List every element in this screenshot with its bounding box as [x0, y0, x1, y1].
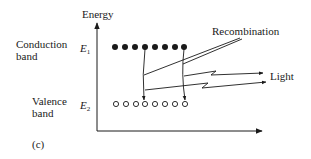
e2-symbol: E	[80, 99, 87, 111]
conduction-band-label-line2: band	[16, 50, 67, 62]
recombination-label: Recombination	[212, 25, 279, 37]
e1-level-label: E1	[80, 42, 90, 58]
transition-arrows	[143, 49, 185, 100]
energy-axis-label: Energy	[82, 8, 114, 20]
conduction-electrons	[112, 44, 187, 50]
valence-band-label-line1: Valence	[32, 95, 67, 107]
transition-arrow-2	[183, 49, 185, 100]
e1-symbol: E	[80, 42, 87, 54]
valence-band-label: Valence band	[32, 95, 67, 119]
panel-label: (c)	[32, 138, 44, 150]
energy-level-diagram	[0, 0, 311, 159]
conduction-band-label: Conduction band	[16, 38, 67, 62]
light-arrow-2	[145, 82, 266, 90]
light-emission-arrows	[145, 71, 266, 90]
e2-level-label: E2	[80, 99, 90, 115]
conduction-band-label-line1: Conduction	[16, 38, 67, 50]
valence-band-label-line2: band	[32, 107, 67, 119]
recombination-leaders	[144, 38, 242, 75]
light-label: Light	[270, 70, 294, 82]
e1-subscript: 1	[87, 48, 91, 56]
valence-holes	[113, 101, 187, 106]
e2-subscript: 2	[87, 105, 91, 113]
light-arrow-1	[184, 71, 263, 76]
